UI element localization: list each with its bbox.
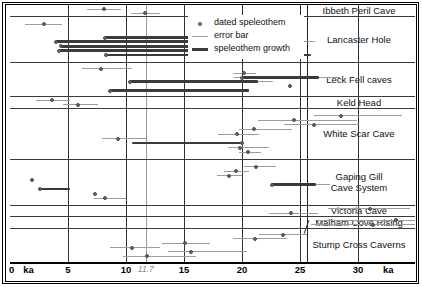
growth-bar (130, 80, 259, 83)
dated-speleothem-point (235, 132, 239, 136)
error-bar (233, 238, 288, 239)
gridline-11-7ka-highlight (146, 5, 147, 262)
dated-speleothem-point (234, 169, 238, 173)
error-bar (94, 198, 126, 199)
dated-speleothem-point (99, 67, 103, 71)
dated-speleothem-point (368, 207, 372, 211)
dated-speleothem-point (270, 183, 274, 187)
dated-speleothem-point (57, 49, 61, 53)
axis-tick-10: 10 (121, 264, 132, 275)
axis-tick-30: 30 (353, 264, 364, 275)
growth-bar (40, 188, 70, 191)
axis-tick-0: 0 (9, 264, 14, 275)
dated-speleothem-point (128, 80, 132, 84)
dated-speleothem-point (116, 137, 120, 141)
legend-item-error-bar: error bar (188, 30, 304, 43)
gridline-10ka (126, 5, 127, 262)
dated-speleothem-point (30, 178, 34, 182)
figure-root: Ibbeth Peril CaveLancaster HoleLeck Fell… (0, 0, 422, 287)
error-bar (269, 213, 318, 214)
dated-speleothem-point (281, 233, 285, 237)
error-bar (168, 251, 247, 252)
dated-speleothem-point (42, 22, 46, 26)
axis-tick-15: 15 (179, 264, 190, 275)
dated-speleothem-point (108, 89, 112, 93)
group-separator (10, 96, 415, 97)
growth-bar (110, 89, 249, 92)
legend-label-speleothem-growth: speleothem growth (214, 43, 290, 53)
error-bar (110, 247, 160, 248)
legend-marker-speleothem-growth-icon (192, 48, 208, 51)
growth-bar (272, 183, 316, 186)
group-separator (10, 108, 415, 109)
dated-speleothem-point (102, 7, 106, 11)
dated-speleothem-point (38, 187, 42, 191)
dated-speleothem-point (145, 254, 149, 258)
axis-tick-ka: ka (23, 264, 34, 275)
error-bar (228, 147, 269, 148)
dated-speleothem-point (227, 174, 231, 178)
group-separator (10, 62, 415, 63)
dated-speleothem-point (242, 71, 246, 75)
growth-bar (242, 76, 319, 79)
dated-speleothem-point (339, 114, 343, 118)
dated-speleothem-point (254, 165, 258, 169)
dated-speleothem-point (238, 146, 242, 150)
dated-speleothem-point (292, 118, 296, 122)
axis-tick-5: 5 (65, 264, 70, 275)
dated-speleothem-point (103, 196, 107, 200)
axis-line-bottom (10, 281, 415, 282)
dated-speleothem-point (371, 223, 375, 227)
legend-label-dated-speleothem: dated speleothem (214, 17, 286, 27)
dated-speleothem-point (76, 103, 80, 107)
dated-speleothem-point (183, 241, 187, 245)
error-bar (102, 138, 146, 139)
dated-speleothem-point (54, 40, 58, 44)
error-bar (314, 115, 402, 116)
dated-speleothem-point (59, 44, 63, 48)
axis-tick-11-7: 11.7 (138, 264, 154, 274)
dated-speleothem-point (312, 123, 316, 127)
dated-speleothem-point (93, 192, 97, 196)
error-bar (239, 129, 292, 130)
dated-speleothem-point (288, 84, 292, 88)
dated-speleothem-point (130, 246, 134, 250)
dated-speleothem-point (253, 237, 257, 241)
dated-speleothem-point (289, 211, 293, 215)
group-separator (10, 228, 415, 229)
error-bar (284, 124, 359, 125)
legend-marker-error-bar-icon (192, 36, 208, 37)
legend-label-error-bar: error bar (214, 30, 249, 40)
group-separator (10, 216, 415, 217)
error-bar (258, 120, 357, 121)
dated-speleothem-point (240, 76, 244, 80)
error-bar (311, 224, 415, 225)
axis-tick-ka: ka (383, 264, 394, 275)
error-bar (318, 220, 415, 221)
dated-speleothem-point (252, 127, 256, 131)
group-separator (10, 205, 415, 206)
dated-speleothem-point (104, 53, 108, 57)
error-bar (244, 166, 275, 167)
x-axis: 0ka51011.715202530ka (10, 262, 415, 284)
growth-bar (132, 142, 242, 145)
error-bar (82, 68, 132, 69)
legend: dated speleothemerror barspeleothem grow… (188, 15, 304, 59)
error-bar (123, 256, 196, 257)
dated-speleothem-point (103, 36, 107, 40)
dated-speleothem-point (189, 250, 193, 254)
axis-tick-25: 25 (295, 264, 306, 275)
group-separator (10, 159, 415, 160)
dated-speleothem-point (240, 141, 244, 145)
gridline-15ka (184, 5, 185, 262)
gridline-5ka (68, 5, 69, 262)
legend-item-speleothem-growth: speleothem growth (188, 43, 304, 56)
dated-speleothem-point (246, 150, 250, 154)
error-bar (63, 104, 98, 105)
legend-marker-dated-speleothem-icon (198, 22, 202, 26)
legend-item-dated-speleothem: dated speleothem (188, 17, 304, 30)
axis-tick-20: 20 (237, 264, 248, 275)
dated-speleothem-point (50, 98, 54, 102)
